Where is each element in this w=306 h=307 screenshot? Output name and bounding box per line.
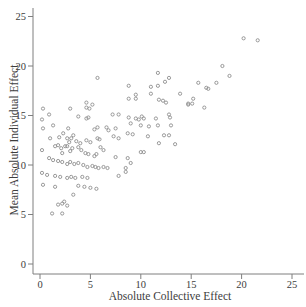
data-point [93, 155, 96, 158]
data-point [164, 101, 167, 104]
data-point [124, 166, 127, 169]
data-point [70, 137, 73, 140]
data-point [67, 127, 70, 130]
data-point [86, 176, 89, 179]
data-point [117, 137, 120, 140]
data-point [127, 84, 130, 87]
data-point [154, 117, 157, 120]
data-point [88, 107, 91, 110]
data-point [192, 97, 195, 100]
data-point [57, 159, 60, 162]
data-point [124, 170, 127, 173]
data-point [117, 113, 120, 116]
data-point [85, 101, 88, 104]
data-point [163, 80, 166, 83]
data-point [203, 106, 206, 109]
data-point [156, 84, 159, 87]
data-point [91, 103, 94, 106]
data-point [157, 98, 160, 101]
x-tick-label: 25 [287, 279, 298, 290]
data-point [77, 115, 80, 118]
data-point [117, 174, 120, 177]
x-tick-label: 5 [88, 279, 93, 290]
y-tick-label: 25 [16, 11, 27, 22]
data-point [52, 124, 55, 127]
data-point [99, 146, 102, 149]
data-point [63, 200, 66, 203]
data-point [48, 113, 51, 116]
data-point [102, 149, 105, 152]
data-point [46, 173, 49, 176]
data-point [256, 39, 259, 42]
data-point [89, 141, 92, 144]
data-point [72, 134, 75, 137]
data-point [129, 122, 132, 125]
data-point [80, 149, 83, 152]
data-point [75, 140, 78, 143]
data-point [142, 117, 145, 120]
y-axis-title: Mean Absolute Individual Effect [8, 60, 20, 220]
data-point [60, 147, 63, 150]
data-point [139, 124, 142, 127]
data-point [66, 176, 69, 179]
data-point [87, 153, 90, 156]
data-point [69, 160, 72, 163]
x-tick-label: 20 [236, 279, 247, 290]
data-point [134, 97, 137, 100]
data-point [73, 162, 76, 165]
data-point [72, 193, 75, 196]
data-point [66, 162, 69, 165]
data-point [93, 128, 96, 131]
data-point [169, 124, 172, 127]
data-point [168, 116, 171, 119]
data-point [111, 113, 114, 116]
data-point [242, 37, 245, 40]
data-point [52, 159, 55, 162]
data-point [85, 139, 88, 142]
data-point [126, 132, 129, 135]
data-point [156, 71, 159, 74]
data-point [74, 176, 77, 179]
data-point [127, 97, 130, 100]
data-point [147, 125, 150, 128]
data-point [131, 133, 134, 136]
data-point [95, 187, 98, 190]
data-point [49, 137, 52, 140]
data-point [86, 165, 89, 168]
data-point [134, 93, 137, 96]
data-point [114, 156, 117, 159]
x-tick-label: 0 [37, 279, 42, 290]
data-point [70, 175, 73, 178]
data-point [167, 76, 170, 79]
data-point [221, 64, 224, 67]
data-point [149, 85, 152, 88]
data-point [40, 118, 43, 121]
data-point [69, 150, 72, 153]
data-point [51, 212, 54, 215]
data-point [41, 183, 44, 186]
scatter-figure: 05101520250510152025 Mean Absolute Indiv… [0, 0, 306, 307]
y-tick-label: 0 [21, 259, 26, 270]
data-point [77, 184, 80, 187]
data-point [107, 129, 110, 132]
data-point [146, 135, 149, 138]
data-point [149, 92, 152, 95]
data-point [82, 163, 85, 166]
data-point [96, 76, 99, 79]
data-point [167, 134, 170, 137]
data-point [57, 203, 60, 206]
x-tick-label: 10 [136, 279, 147, 290]
data-point [40, 149, 43, 152]
data-point [197, 81, 200, 84]
data-point [114, 127, 117, 130]
data-point [66, 204, 69, 207]
data-point [54, 174, 57, 177]
data-point [57, 144, 60, 147]
data-point [59, 175, 62, 178]
data-point [83, 185, 86, 188]
data-point [41, 127, 44, 130]
data-point [191, 102, 194, 105]
data-point [77, 161, 80, 164]
data-point [112, 135, 115, 138]
data-point [69, 107, 72, 110]
